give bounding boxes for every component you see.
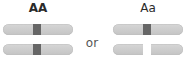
chromosome-heterozygous-2 <box>113 44 183 55</box>
chromosome-homozygous-1 <box>3 24 73 35</box>
allele-band-recessive <box>143 44 151 55</box>
chromosome-homozygous-2 <box>3 44 73 55</box>
allele-band-dominant <box>33 24 41 35</box>
genotype-label-homozygous: AA <box>18 1 58 15</box>
or-connector: or <box>81 36 103 50</box>
genotype-label-heterozygous: Aa <box>128 1 168 15</box>
chromosome-heterozygous-1 <box>113 24 183 35</box>
allele-band-dominant <box>143 24 151 35</box>
allele-band-dominant <box>33 44 41 55</box>
